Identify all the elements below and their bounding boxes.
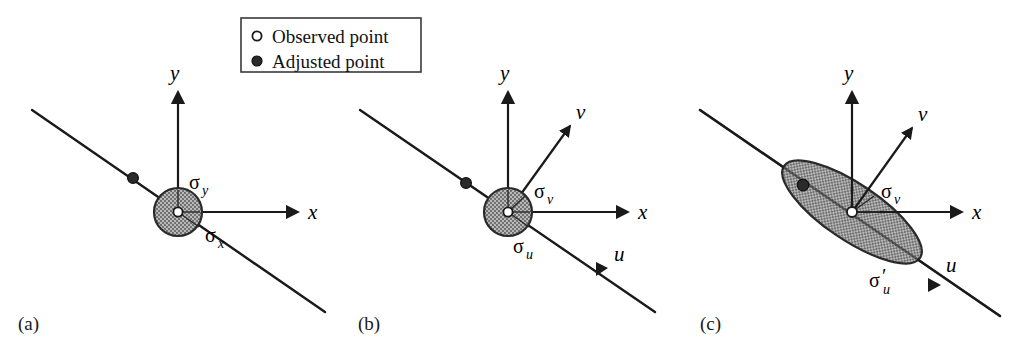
panel-c-adjusted-point [797, 179, 809, 191]
panel-b-sigma-v-subscript: v [547, 192, 554, 207]
observed-point-marker-icon [252, 31, 261, 40]
panel-a-caption: (a) [18, 313, 39, 335]
panel-a-sigma-y-subscript: y [200, 183, 209, 198]
panel-a-y-axis-label: y [168, 61, 180, 85]
panel-c-x-axis-label: x [971, 200, 982, 224]
panel-b-y-axis-label: y [498, 61, 510, 85]
panel-b-v-axis-label: v [576, 100, 586, 124]
error-ellipse-figure: Observed point Adjusted point y x σ y σ … [0, 0, 1015, 357]
panel-a-observed-point [173, 207, 182, 216]
panel-a-sigma-y-symbol: σ [189, 171, 200, 193]
panel-c-sigma-u-subscript: u [883, 282, 890, 297]
panel-a-adjusted-point [128, 173, 139, 184]
panel-b-x-axis-label: x [637, 200, 648, 224]
panel-b-observed-point [503, 207, 512, 216]
panel-c-sigma-v-symbol: σ [881, 180, 892, 202]
panel-c-sigma-u-symbol: σ [869, 269, 880, 291]
legend-item-observed: Observed point [252, 26, 389, 47]
panel-c-u-axis-label: u [946, 253, 957, 277]
panel-a-sigma-x-symbol: σ [205, 224, 216, 246]
panel-a-x-axis-label: x [307, 200, 318, 224]
panel-b-sigma-u-symbol: σ [513, 235, 524, 257]
legend-label-observed: Observed point [272, 26, 389, 47]
panel-b-sigma-u-subscript: u [526, 247, 533, 262]
panel-a-sigma-x-subscript: x [217, 236, 225, 251]
panel-b-sigma-v-symbol: σ [534, 180, 545, 202]
panel-b-caption: (b) [358, 313, 380, 335]
panel-b-u-axis-label: u [614, 242, 625, 266]
legend: Observed point Adjusted point [241, 18, 421, 72]
panel-c-observed-point [847, 207, 857, 217]
panel-c-caption: (c) [700, 313, 721, 335]
panel-c-v-axis-label: v [918, 102, 928, 126]
adjusted-point-marker-icon [252, 56, 262, 66]
panel-b-adjusted-point [461, 178, 472, 189]
panel-c-y-axis-label: y [842, 61, 854, 85]
legend-label-adjusted: Adjusted point [272, 51, 385, 72]
panel-c-sigma-v-subscript: v [894, 192, 901, 207]
legend-item-adjusted: Adjusted point [252, 51, 385, 72]
